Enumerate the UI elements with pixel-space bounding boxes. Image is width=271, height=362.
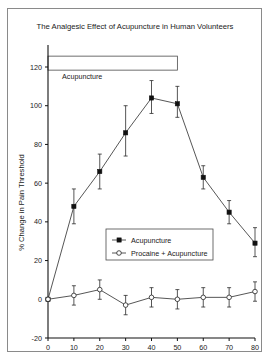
acupuncture-line-chart: The Analgesic Effect of Acupuncture in H… — [8, 9, 263, 353]
legend-marker-open-circle — [117, 251, 122, 256]
data-point — [253, 289, 258, 294]
y-tick-label: 120 — [30, 63, 42, 72]
y-tick-label: 40 — [34, 217, 42, 226]
x-tick-label: 80 — [251, 343, 259, 352]
x-tick-label: 20 — [96, 343, 104, 352]
y-tick-label: 80 — [34, 140, 42, 149]
series-1 — [46, 81, 257, 302]
y-axis-title: % Change in Pain Threshold — [17, 154, 26, 251]
y-tick-label: 20 — [34, 256, 42, 265]
chart-title: The Analgesic Effect of Acupuncture in H… — [37, 22, 234, 31]
chart-legend: AcupunctureProcaine + Acupuncture — [106, 229, 213, 260]
acupuncture-span-bar: Acupuncture — [48, 56, 177, 81]
x-tick-label: 60 — [199, 343, 207, 352]
series-2 — [46, 280, 258, 315]
data-point — [46, 297, 51, 302]
data-point — [72, 204, 76, 208]
data-point — [149, 96, 153, 100]
data-point — [98, 169, 102, 173]
acupuncture-span-bar-rect — [48, 56, 177, 70]
chart-figure: The Analgesic Effect of Acupuncture in H… — [8, 9, 263, 353]
x-tick-label: 70 — [225, 343, 233, 352]
data-point — [227, 210, 231, 214]
x-tick-label: 40 — [148, 343, 156, 352]
y-axis-ticks: -20020406080100120 — [30, 63, 48, 343]
data-point — [175, 297, 180, 302]
data-point — [253, 241, 257, 245]
data-point — [227, 295, 232, 300]
legend-label: Procaine + Acupuncture — [131, 249, 208, 258]
data-point — [72, 293, 77, 298]
data-point — [201, 295, 206, 300]
x-tick-label: 30 — [122, 343, 130, 352]
x-tick-label: 0 — [46, 343, 50, 352]
data-point — [124, 131, 128, 135]
y-axis: -20020406080100120 % Change in Pain Thre… — [17, 45, 48, 343]
series-layer — [46, 81, 258, 315]
series-line-1 — [48, 98, 255, 299]
y-tick-label: 60 — [34, 179, 42, 188]
figure-frame: The Analgesic Effect of Acupuncture in H… — [7, 8, 262, 352]
y-tick-label: 0 — [38, 295, 42, 304]
data-point — [123, 303, 128, 308]
data-point — [201, 175, 205, 179]
acupuncture-span-bar-label: Acupuncture — [62, 72, 102, 81]
y-tick-label: -20 — [32, 334, 42, 343]
data-point — [175, 102, 179, 106]
legend-marker-filled-square — [117, 238, 121, 242]
x-tick-label: 10 — [70, 343, 78, 352]
x-axis-ticks: 01020304050607080 — [46, 338, 259, 352]
x-axis: 01020304050607080 Time (minutes) — [46, 338, 259, 353]
data-point — [149, 295, 154, 300]
legend-label: Acupuncture — [131, 236, 171, 245]
y-tick-label: 100 — [30, 101, 42, 110]
x-tick-label: 50 — [173, 343, 181, 352]
data-point — [97, 287, 102, 292]
